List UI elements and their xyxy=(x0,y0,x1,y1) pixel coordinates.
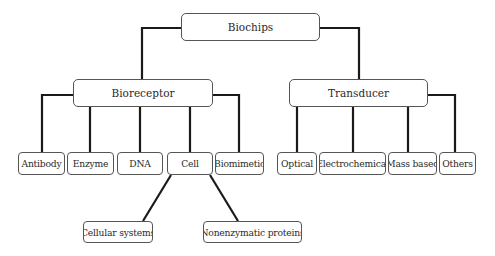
node-dna: DNA xyxy=(117,152,163,175)
connector-antibody xyxy=(42,95,73,152)
connector-biomimetic xyxy=(213,95,239,152)
connector-nonenzymatic-proteins xyxy=(210,175,238,221)
node-cellular-systems: Cellular systems xyxy=(83,221,153,243)
node-biochips: Biochips xyxy=(181,13,320,41)
node-mass-based: Mass based xyxy=(388,152,437,175)
node-antibody: Antibody xyxy=(18,152,65,175)
node-cell: Cell xyxy=(167,152,213,175)
connector-biochips-bioreceptor xyxy=(142,28,181,79)
node-electrochemical: Electrochemical xyxy=(319,152,386,175)
node-others: Others xyxy=(439,152,476,175)
connector-biochips-transducer xyxy=(320,28,359,79)
node-nonenzymatic-proteins: Nonenzymatic proteins xyxy=(203,221,302,243)
connector-cellular-systems xyxy=(143,175,171,221)
node-optical: Optical xyxy=(277,152,317,175)
node-transducer: Transducer xyxy=(289,79,428,107)
node-enzyme: Enzyme xyxy=(67,152,114,175)
connector-others xyxy=(428,95,455,152)
node-bioreceptor: Bioreceptor xyxy=(73,79,213,107)
node-biomimetic: Biomimetic xyxy=(215,152,264,175)
